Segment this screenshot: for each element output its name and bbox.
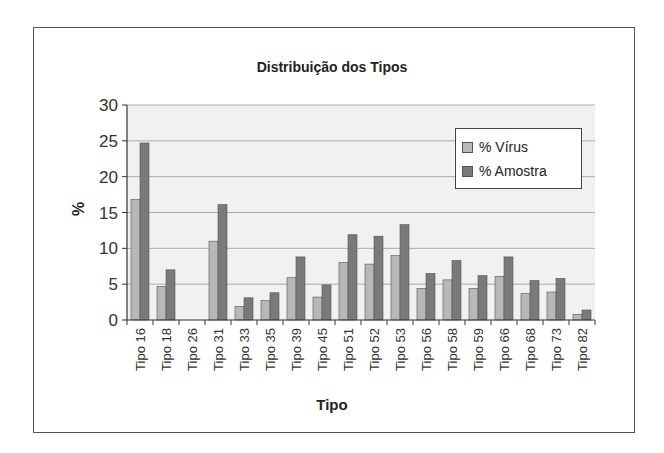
x-tick-label: Tipo 45 <box>315 328 330 371</box>
y-tick-label: 10 <box>99 239 118 258</box>
bar <box>244 298 253 320</box>
bar <box>131 200 140 320</box>
bar <box>287 278 296 320</box>
y-tick-label: 15 <box>99 204 118 223</box>
legend-item-amostra: % Amostra <box>462 159 581 183</box>
y-tick-label: 30 <box>99 96 118 115</box>
bar <box>209 241 218 320</box>
x-tick-label: Tipo 31 <box>211 328 226 371</box>
x-tick-label: Tipo 52 <box>367 328 382 371</box>
bar <box>140 143 149 320</box>
bar <box>270 293 279 320</box>
bar-chart: 051015202530Tipo 16Tipo 18Tipo 26Tipo 31… <box>0 0 664 453</box>
y-tick-label: 25 <box>99 132 118 151</box>
bar <box>157 286 166 320</box>
bar <box>417 288 426 320</box>
x-tick-label: Tipo 82 <box>575 328 590 371</box>
bar <box>313 297 322 320</box>
legend-label-virus: % Vírus <box>479 139 528 155</box>
x-tick-label: Tipo 33 <box>237 328 252 371</box>
y-tick-label: 0 <box>109 311 118 330</box>
x-tick-label: Tipo 68 <box>523 328 538 371</box>
bar <box>261 301 270 320</box>
bar <box>400 225 409 320</box>
bar <box>573 314 582 320</box>
bar <box>504 257 513 320</box>
bar <box>582 310 591 320</box>
x-tick-label: Tipo 59 <box>471 328 486 371</box>
y-axis-label: % <box>70 202 88 216</box>
x-tick-label: Tipo 53 <box>393 328 408 371</box>
x-tick-label: Tipo 18 <box>159 328 174 371</box>
bar <box>218 205 227 320</box>
bar <box>478 276 487 320</box>
bar <box>521 293 530 320</box>
bar <box>495 276 504 320</box>
bar <box>547 292 556 320</box>
y-tick-label: 20 <box>99 168 118 187</box>
bar <box>365 264 374 320</box>
bar <box>296 257 305 320</box>
x-tick-label: Tipo 51 <box>341 328 356 371</box>
x-tick-label: Tipo 56 <box>419 328 434 371</box>
bar <box>443 280 452 320</box>
bar <box>235 306 244 320</box>
x-axis-label: Tipo <box>0 396 664 413</box>
bar <box>166 270 175 320</box>
legend-swatch-virus <box>462 142 473 153</box>
bar <box>556 278 565 320</box>
x-tick-label: Tipo 66 <box>497 328 512 371</box>
y-tick-label: 5 <box>109 275 118 294</box>
x-tick-label: Tipo 35 <box>263 328 278 371</box>
x-tick-label: Tipo 58 <box>445 328 460 371</box>
x-tick-label: Tipo 16 <box>133 328 148 371</box>
bar <box>426 273 435 320</box>
bar <box>530 281 539 320</box>
x-tick-label: Tipo 39 <box>289 328 304 371</box>
bar <box>452 261 461 320</box>
x-tick-label: Tipo 73 <box>549 328 564 371</box>
x-tick-label: Tipo 26 <box>185 328 200 371</box>
bar <box>348 235 357 320</box>
legend-item-virus: % Vírus <box>462 135 581 159</box>
bar <box>374 236 383 320</box>
legend: % Vírus % Amostra <box>455 128 582 189</box>
bar <box>322 285 331 320</box>
bar <box>339 263 348 320</box>
bar <box>391 256 400 321</box>
legend-swatch-amostra <box>462 166 473 177</box>
legend-label-amostra: % Amostra <box>479 163 547 179</box>
bar <box>469 288 478 320</box>
